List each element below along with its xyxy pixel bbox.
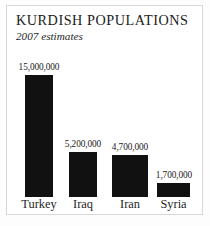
bar-iran xyxy=(112,155,148,197)
category-label-syria: Syria xyxy=(149,198,198,210)
bar-value-label: 5,200,000 xyxy=(57,140,109,149)
category-label-iraq: Iraq xyxy=(59,198,107,210)
bar-value-label: 1,700,000 xyxy=(148,171,200,180)
bar-value-label: 4,700,000 xyxy=(104,143,156,152)
bar-value-label: 15,000,000 xyxy=(10,63,68,72)
bar-iraq xyxy=(69,152,97,197)
bar-syria xyxy=(157,183,190,197)
category-label-iran: Iran xyxy=(106,198,154,210)
bar-turkey xyxy=(25,75,53,197)
plot-area: 15,000,000Turkey5,200,000Iraq4,700,000Ir… xyxy=(0,0,210,226)
chart-figure: KURDISH POPULATIONS 2007 estimates 15,00… xyxy=(0,0,210,226)
